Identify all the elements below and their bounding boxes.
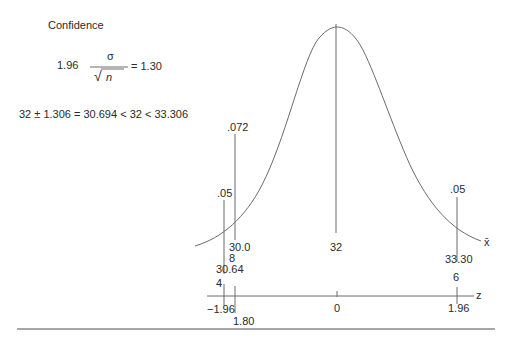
z-tick-neg196: −1.96 <box>207 303 235 315</box>
z-tick-0: 0 <box>334 302 340 314</box>
label-upper-bound-1: 33.30 <box>445 253 473 265</box>
label-xbar-axis: x̄ <box>484 236 490 248</box>
label-upper-bound-2: 6 <box>453 271 459 283</box>
normal-curve-diagram <box>0 0 515 348</box>
label-lower-bound-2: 4 <box>216 277 222 289</box>
z-axis-label: z <box>476 289 482 301</box>
label-left-pvalue: .072 <box>227 121 248 133</box>
z-tick-180: 1.80 <box>233 315 254 327</box>
label-mean: 32 <box>330 241 342 253</box>
z-tick-196: 1.96 <box>448 302 469 314</box>
bell-curve <box>195 27 481 246</box>
label-lower-bound-1: 30.64 <box>216 263 244 275</box>
label-right-alpha: .05 <box>450 183 465 195</box>
label-left-alpha: .05 <box>217 187 232 199</box>
